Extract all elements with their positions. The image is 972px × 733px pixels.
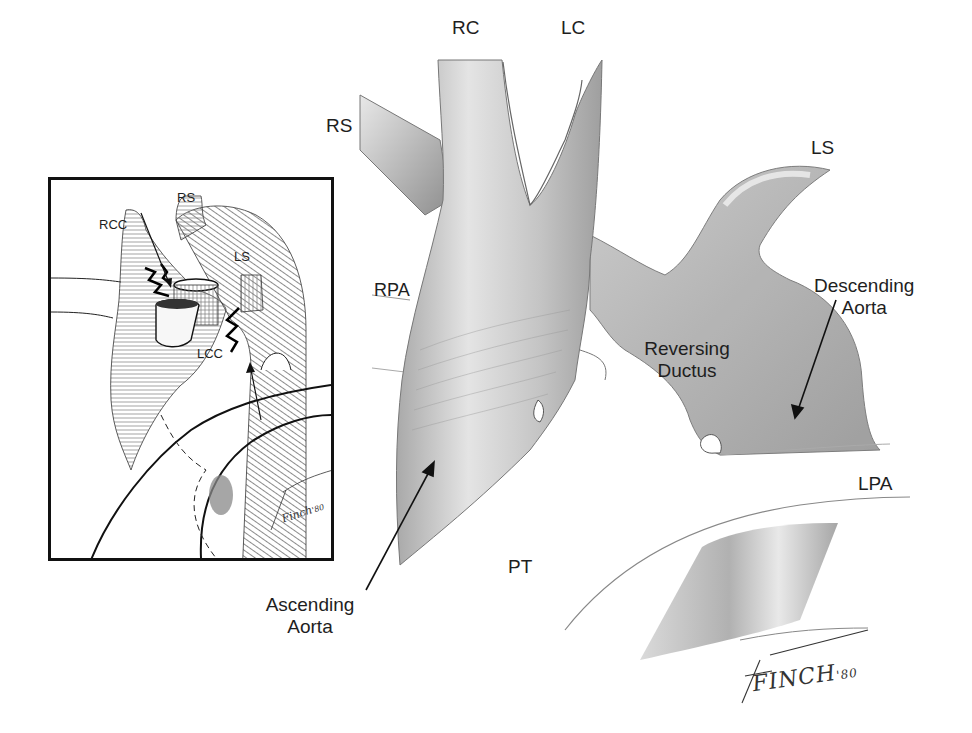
inset-panel: RS RCC LS LCC Finch'80 (48, 177, 334, 561)
label-rc: RC (452, 17, 479, 39)
inset-label-lcc: LCC (197, 346, 223, 361)
label-reversing-ductus: Reversing Ductus (634, 338, 740, 382)
label-rpa: RPA (374, 279, 410, 301)
inset-ls-stump (241, 275, 263, 312)
label-descending-aorta: Descending Aorta (814, 275, 914, 319)
label-pt: PT (508, 556, 532, 578)
inset-label-ls: LS (234, 249, 250, 264)
inset-label-rs: RS (177, 190, 195, 205)
left-pulmonary-artery-band (640, 523, 838, 660)
label-lpa: LPA (858, 473, 893, 495)
right-subclavian-vessel (360, 95, 450, 215)
inset-label-rcc: RCC (99, 217, 127, 232)
label-rs: RS (326, 115, 352, 137)
label-lc: LC (561, 17, 585, 39)
label-ls: LS (811, 137, 834, 159)
inset-illustration (51, 180, 331, 558)
label-ascending-aorta: Ascending Aorta (254, 594, 366, 638)
